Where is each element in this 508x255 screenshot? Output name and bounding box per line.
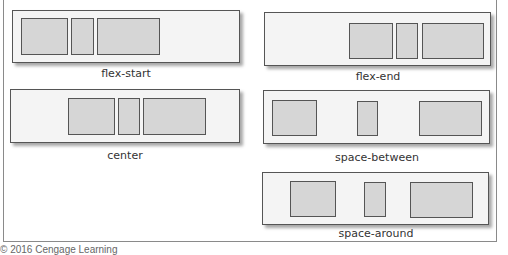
flex-item-2	[71, 18, 94, 55]
flex-item-3	[422, 23, 484, 59]
panel-center	[10, 89, 240, 143]
label-flex-end: flex-end	[264, 70, 492, 83]
copyright-text: © 2016 Cengage Learning	[0, 244, 117, 255]
label-space-between: space-between	[263, 151, 491, 164]
panel-space-around	[262, 172, 489, 225]
flex-item-2	[357, 101, 378, 136]
flex-item-2	[364, 182, 386, 217]
label-space-around: space-around	[262, 227, 490, 240]
flex-item-3	[419, 101, 482, 136]
flex-item-1	[68, 98, 115, 135]
panel-flex-start	[12, 10, 240, 63]
flex-item-1	[290, 181, 336, 217]
panel-flex-end	[264, 12, 491, 66]
flex-item-3	[97, 18, 160, 55]
label-center: center	[11, 149, 239, 162]
panel-space-between	[263, 90, 490, 144]
flex-item-1	[349, 23, 393, 59]
flex-item-3	[143, 98, 206, 135]
flex-item-1	[272, 100, 317, 136]
flex-item-3	[410, 182, 473, 218]
flex-item-2	[396, 23, 418, 59]
flex-item-1	[21, 18, 68, 55]
label-flex-start: flex-start	[12, 67, 240, 80]
flex-item-2	[118, 98, 140, 135]
